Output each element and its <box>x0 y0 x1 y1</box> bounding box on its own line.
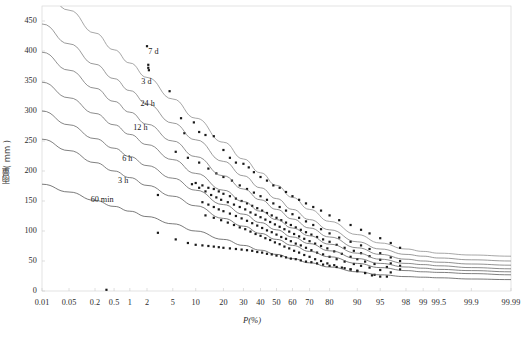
scatter-point <box>300 229 302 231</box>
scatter-point <box>220 219 222 221</box>
scatter-point <box>248 166 250 168</box>
scatter-point <box>399 247 401 249</box>
scatter-point <box>371 274 373 276</box>
scatter-point <box>198 131 200 133</box>
scatter-point <box>305 202 307 204</box>
scatter-point <box>157 232 159 234</box>
scatter-point <box>364 261 366 263</box>
scatter-point <box>312 224 314 226</box>
curve-label: 24 h <box>140 99 154 108</box>
scatter-point <box>180 117 182 119</box>
scatter-point <box>253 171 255 173</box>
scatter-point <box>275 217 277 219</box>
scatter-point <box>344 267 346 269</box>
scatter-point <box>201 201 203 203</box>
scatter-point <box>271 214 273 216</box>
scatter-point <box>251 222 253 224</box>
scatter-point <box>338 219 340 221</box>
scatter-point <box>399 260 401 262</box>
y-axis-tick-label: 200 <box>10 166 37 175</box>
scatter-point <box>256 225 258 227</box>
scatter-point <box>322 264 324 266</box>
frequency-curve <box>42 24 511 261</box>
scatter-point <box>305 247 307 249</box>
scatter-point <box>288 247 290 249</box>
scatter-point <box>218 208 220 210</box>
scatter-point <box>274 223 276 225</box>
scatter-point <box>147 64 149 66</box>
scatter-point <box>256 251 258 253</box>
scatter-point <box>148 69 150 71</box>
scatter-point <box>390 242 392 244</box>
scatter-point <box>249 211 251 213</box>
scatter-point <box>269 221 271 223</box>
scatter-point <box>239 206 241 208</box>
scatter-point <box>298 235 300 237</box>
scatter-point <box>310 261 312 263</box>
scatter-point <box>261 227 263 229</box>
scatter-point <box>291 213 293 215</box>
y-axis-tick-label: 300 <box>10 106 37 115</box>
scatter-point <box>305 231 307 233</box>
y-axis-tick-label: 400 <box>10 46 37 55</box>
frequency-curve <box>42 52 511 265</box>
curve-label: 7 d <box>148 47 158 56</box>
y-axis-tick-label: 350 <box>10 76 37 85</box>
scatter-point <box>213 206 215 208</box>
scatter-point <box>283 246 285 248</box>
scatter-point <box>218 246 220 248</box>
scatter-point <box>266 180 268 182</box>
scatter-point <box>157 194 159 196</box>
scatter-point <box>308 240 310 242</box>
scatter-point <box>241 217 243 219</box>
scatter-point <box>191 183 193 185</box>
scatter-point <box>360 244 362 246</box>
scatter-point <box>303 254 305 256</box>
scatter-point <box>261 252 263 254</box>
scatter-point <box>213 135 215 137</box>
scatter-point <box>275 234 277 236</box>
scatter-point <box>266 229 268 231</box>
scatter-point <box>308 256 310 258</box>
scatter-point <box>322 238 324 240</box>
scatter-point <box>310 234 312 236</box>
scatter-point <box>229 195 231 197</box>
scatter-point <box>328 265 330 267</box>
scatter-point <box>285 222 287 224</box>
scatter-point <box>285 191 287 193</box>
scatter-point <box>379 269 381 271</box>
scatter-point <box>259 235 261 237</box>
scatter-point <box>379 276 381 278</box>
scatter-point <box>285 256 287 258</box>
scatter-point <box>210 194 212 196</box>
scatter-point <box>328 232 330 234</box>
scatter-point <box>379 252 381 254</box>
scatter-point <box>175 151 177 153</box>
scatter-point <box>207 187 209 189</box>
scatter-point <box>303 238 305 240</box>
scatter-point <box>222 193 224 195</box>
scatter-point <box>105 289 107 291</box>
scatter-point <box>239 226 241 228</box>
scatter-point <box>253 192 255 194</box>
scatter-point <box>320 260 322 262</box>
scatter-point <box>222 176 224 178</box>
scatter-point <box>207 204 209 206</box>
scatter-point <box>336 258 338 260</box>
scatter-point <box>259 216 261 218</box>
scatter-point <box>272 184 274 186</box>
scatter-point <box>244 228 246 230</box>
scatter-point <box>349 268 351 270</box>
scatter-point <box>254 214 256 216</box>
scatter-point <box>279 226 281 228</box>
scatter-point <box>207 245 209 247</box>
scatter-point <box>195 244 197 246</box>
scatter-point <box>227 201 229 203</box>
scatter-point <box>364 272 366 274</box>
scatter-point <box>310 249 312 251</box>
scatter-point <box>326 247 328 249</box>
scatter-point <box>272 202 274 204</box>
scatter-point <box>316 262 318 264</box>
scatter-point <box>213 188 215 190</box>
y-axis-tick-label: 150 <box>10 196 37 205</box>
